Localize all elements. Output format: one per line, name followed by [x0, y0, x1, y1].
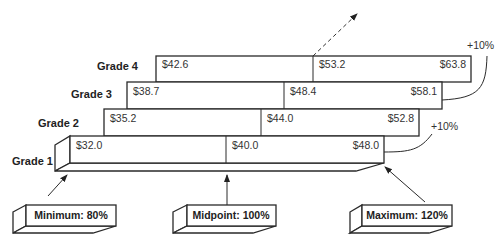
progression-label-bottom: +10% — [431, 120, 458, 132]
grade-2-mid: $44.0 — [267, 112, 293, 124]
grade-1-mid: $40.0 — [232, 139, 258, 151]
grade-1-max: $48.0 — [353, 139, 379, 151]
minimum-arrow — [48, 175, 67, 196]
grade-1-min: $32.0 — [76, 139, 102, 151]
grade-4-band — [156, 56, 471, 82]
grade-3-max: $58.1 — [411, 85, 437, 97]
midpoint-label: Midpoint: 100% — [192, 209, 270, 221]
grade-3-band — [127, 82, 442, 109]
progression-curve-bottom — [384, 134, 432, 152]
grade-4-min: $42.6 — [162, 58, 188, 70]
grade-4-mid: $53.2 — [319, 58, 345, 70]
grade-4-max: $63.8 — [440, 58, 466, 70]
grade-4-label: Grade 4 — [97, 60, 139, 72]
grade-2-label: Grade 2 — [38, 117, 79, 129]
trend-arrow — [313, 14, 357, 56]
grade-1-label: Grade 1 — [12, 155, 53, 167]
grade-3-mid: $48.4 — [290, 85, 316, 97]
minimum-label: Minimum: 80% — [34, 209, 108, 221]
grade-2-min: $35.2 — [110, 112, 136, 124]
grade-1-band — [55, 136, 384, 171]
grade-2-band — [104, 109, 419, 136]
progression-label-top: +10% — [467, 39, 494, 51]
grade-2-max: $52.8 — [388, 112, 414, 124]
maximum-label: Maximum: 120% — [366, 209, 448, 221]
grade-3-label: Grade 3 — [71, 88, 112, 100]
grade-3-min: $38.7 — [133, 85, 159, 97]
salary-grade-diagram: Grade 4 Grade 3 Grade 2 Grade 1 $42.6 $5… — [0, 0, 502, 243]
maximum-arrow — [385, 167, 425, 202]
